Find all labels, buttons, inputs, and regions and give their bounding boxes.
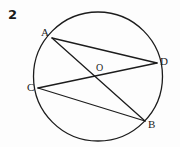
geometry-figure: 2 A D C B O [0, 0, 180, 147]
point-label-a: A [41, 27, 49, 38]
chord-ad [52, 38, 157, 63]
chord-cb [38, 88, 145, 121]
circle-outline [34, 12, 163, 141]
point-label-c: C [27, 82, 34, 93]
point-label-o: O [96, 62, 103, 73]
point-label-b: B [148, 119, 155, 130]
chord-ab [52, 38, 145, 121]
point-label-d: D [160, 56, 168, 67]
